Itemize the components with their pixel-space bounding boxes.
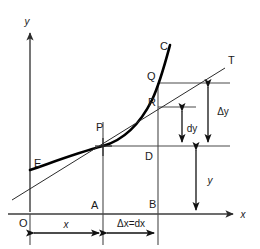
dimension-label-delta-y: Δy	[217, 106, 229, 117]
dimension-label-dy: dy	[187, 123, 198, 134]
dimension-label-delta-x: Δx=dx	[117, 218, 145, 229]
origin-label: O	[19, 217, 28, 229]
point-label-D: D	[145, 150, 153, 162]
point-label-E: E	[34, 157, 41, 169]
point-label-Q: Q	[147, 70, 156, 82]
x-axis-label: x	[240, 209, 247, 220]
dimension-label-y: y	[207, 175, 214, 186]
point-label-C: C	[160, 40, 168, 52]
point-label-B: B	[149, 198, 156, 210]
dimension-label-x: x	[63, 219, 70, 230]
tangent-line-PT	[12, 68, 225, 200]
point-label-P: P	[96, 121, 103, 133]
point-label-A: A	[91, 199, 99, 211]
point-label-R: R	[148, 96, 156, 108]
y-axis-label: y	[24, 16, 31, 27]
point-label-T: T	[228, 54, 235, 66]
differential-diagram: y x O E C P T Q R A B D x Δx=dx y dy Δy	[0, 0, 260, 249]
